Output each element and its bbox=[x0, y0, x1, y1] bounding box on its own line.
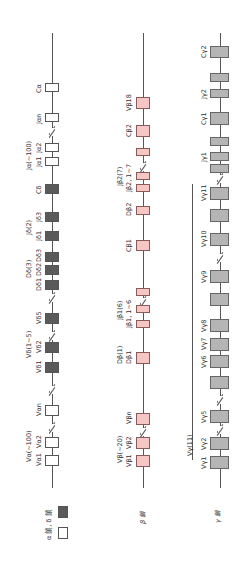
label-d-beta-2: Dβ2 bbox=[126, 203, 133, 216]
segment-j-beta-1-6 bbox=[136, 288, 150, 296]
label-j-delta-1: Jδ1 bbox=[36, 231, 43, 241]
segment-v-beta-n bbox=[136, 413, 150, 425]
label-v-gamma-10: Vγ10 bbox=[201, 230, 208, 247]
label-v-gamma-5: Vγ5 bbox=[201, 411, 208, 423]
label-v-beta-2: Vβ2 bbox=[126, 436, 133, 449]
label-j-gamma-1: Jγ1 bbox=[201, 152, 208, 162]
segment-j-beta-1-1 bbox=[136, 320, 150, 328]
label-c-gamma-2: Cγ2 bbox=[201, 45, 208, 58]
label-c-beta-2: Cβ2 bbox=[126, 124, 133, 137]
segment-j-alpha-n bbox=[45, 113, 59, 122]
beta-chain-title: β 鎖 bbox=[140, 511, 147, 524]
segment-v-gamma-1 bbox=[210, 456, 229, 469]
label-v-alpha-1: Vα1 bbox=[36, 453, 43, 466]
label-j-alpha-2: Jα2 bbox=[36, 143, 43, 153]
label-c-delta: Cδ bbox=[36, 185, 43, 194]
segment-j-gamma-2 bbox=[210, 89, 229, 98]
segment-d-delta-2 bbox=[45, 265, 59, 275]
segment-j-beta-2-7 bbox=[136, 148, 150, 156]
segment-v-gamma-10 bbox=[210, 233, 229, 246]
segment-c-alpha bbox=[45, 83, 59, 92]
segment-d-delta-1 bbox=[45, 280, 59, 290]
segment-d-beta-1 bbox=[136, 352, 150, 364]
segment-v-gamma-pseudo-3 bbox=[210, 376, 229, 389]
break-mark bbox=[215, 255, 225, 261]
label-d-delta-1: Dδ1 bbox=[36, 278, 43, 291]
label-v-delta-5: Vδ5 bbox=[36, 311, 43, 324]
label-j-alpha-1: Jα1 bbox=[36, 157, 43, 167]
label-v-gamma-8: Vγ8 bbox=[201, 320, 208, 332]
segment-v-gamma-5 bbox=[210, 410, 229, 423]
label-c-beta-1: Cβ1 bbox=[126, 239, 133, 252]
legend-label: α 鎖, δ 鎖 bbox=[46, 509, 53, 540]
segment-v-delta-2 bbox=[45, 342, 59, 353]
segment-v-alpha-n bbox=[45, 405, 59, 416]
group-j-beta-2: Jβ2(7) bbox=[117, 167, 124, 186]
group-j-delta: Jδ(2) bbox=[26, 220, 33, 235]
break-mark bbox=[215, 427, 225, 433]
legend-swatch-delta bbox=[58, 506, 68, 518]
label-v-beta-18: Vβ18 bbox=[126, 94, 133, 111]
group-v-gamma: Vγ(11) bbox=[187, 434, 194, 456]
label-v-alpha-n: Vαn bbox=[36, 403, 43, 416]
group-v-beta: Vβ(~20) bbox=[117, 436, 124, 463]
break-mark bbox=[215, 176, 225, 182]
break-mark bbox=[47, 387, 57, 393]
segment-d-beta-2 bbox=[136, 206, 150, 215]
label-v-gamma-9: Vγ9 bbox=[201, 271, 208, 283]
segment-v-gamma-6 bbox=[210, 355, 229, 368]
label-v-gamma-2: Vγ2 bbox=[201, 438, 208, 450]
segment-c-beta-1 bbox=[136, 240, 150, 251]
break-mark bbox=[47, 333, 57, 339]
segment-v-gamma-7 bbox=[210, 338, 229, 351]
label-j-beta-1: Jβ1, 1~6 bbox=[126, 300, 133, 328]
label-j-gamma-2: Jγ2 bbox=[201, 89, 208, 99]
segment-c-gamma-2 bbox=[210, 46, 229, 58]
group-d-beta: Dβ(1) bbox=[117, 346, 124, 364]
group-v-delta: Vδ(1~5) bbox=[26, 331, 33, 358]
gamma-chain-title: γ 鎖 bbox=[215, 510, 222, 523]
break-mark bbox=[215, 397, 225, 403]
label-c-gamma-1: Cγ1 bbox=[201, 112, 208, 125]
label-v-gamma-11: Vγ11 bbox=[201, 184, 208, 201]
break-mark bbox=[47, 295, 57, 301]
label-j-alpha-n: Jαn bbox=[36, 114, 43, 124]
segment-j-gamma-1b bbox=[210, 164, 229, 173]
label-j-beta-2: Jβ2, 1~7 bbox=[126, 164, 133, 192]
label-v-delta-2: Vδ2 bbox=[36, 340, 43, 353]
label-c-alpha: Cα bbox=[36, 84, 43, 93]
segment-j-beta-2-2 bbox=[136, 172, 150, 180]
v-gamma-bracket bbox=[192, 184, 193, 460]
segment-v-gamma-8 bbox=[210, 319, 229, 332]
segment-v-delta-5 bbox=[45, 313, 59, 324]
group-v-alpha: Vα(~100) bbox=[26, 430, 33, 462]
label-v-beta-1: Vβ1 bbox=[126, 454, 133, 467]
segment-v-beta-18 bbox=[136, 97, 150, 109]
segment-j-beta-2-1 bbox=[136, 184, 150, 192]
segment-c-beta-2 bbox=[136, 125, 150, 137]
segment-v-delta-1 bbox=[45, 362, 59, 373]
segment-v-gamma-11 bbox=[210, 187, 229, 200]
segment-j-delta-1 bbox=[45, 231, 59, 241]
break-mark bbox=[47, 425, 57, 431]
group-j-alpha: Jα(~100) bbox=[26, 141, 33, 170]
segment-j-alpha-1 bbox=[45, 157, 59, 166]
segment-v-gamma-pseudo-2 bbox=[210, 293, 229, 306]
group-d-delta: Dδ(3) bbox=[26, 260, 33, 278]
segment-v-gamma-2 bbox=[210, 437, 229, 450]
legend-swatch-alpha bbox=[58, 527, 68, 539]
segment-v-gamma-9 bbox=[210, 270, 229, 283]
segment-v-gamma-pseudo-1 bbox=[210, 209, 229, 222]
break-mark bbox=[47, 129, 57, 135]
segment-j-delta-3 bbox=[45, 212, 59, 222]
segment-v-beta-2 bbox=[136, 437, 150, 449]
label-d-beta-1: Dβ1 bbox=[126, 351, 133, 364]
label-v-delta-1: Vδ1 bbox=[36, 360, 43, 373]
break-mark bbox=[138, 164, 148, 170]
segment-j-alpha-2 bbox=[45, 143, 59, 152]
segment-c-delta bbox=[45, 184, 59, 194]
segment-j-gamma-1 bbox=[210, 152, 229, 161]
label-v-alpha-2: Vα2 bbox=[36, 435, 43, 448]
label-j-delta-3: Jδ3 bbox=[36, 212, 43, 222]
segment-v-alpha-2 bbox=[45, 437, 59, 448]
